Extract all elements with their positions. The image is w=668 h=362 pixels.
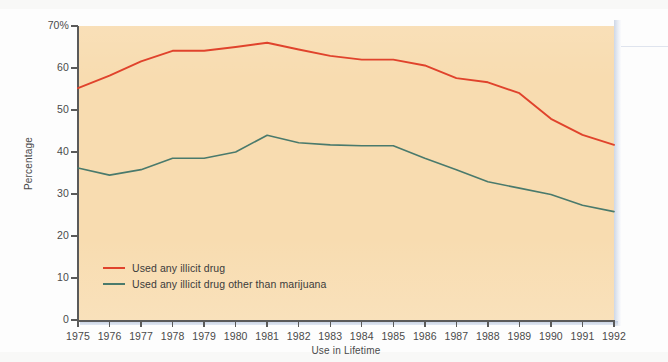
- x-tick-1991: [582, 321, 583, 327]
- y-tick-30: [71, 193, 78, 194]
- page-edge-shadow: [614, 20, 621, 326]
- x-tick-label-1992: 1992: [591, 330, 637, 342]
- legend-swatch-icon-1: [103, 283, 125, 285]
- series-line-0: [78, 43, 614, 145]
- x-tick-1984: [361, 321, 362, 327]
- series-line-1: [78, 135, 614, 211]
- y-tick-50: [71, 109, 78, 110]
- y-tick-label-30: 30: [5, 187, 69, 199]
- y-tick-label-60: 60: [5, 61, 69, 73]
- x-tick-1985: [393, 321, 394, 327]
- x-tick-1981: [266, 321, 267, 327]
- x-tick-1987: [456, 321, 457, 327]
- x-tick-1986: [424, 321, 425, 327]
- y-tick-label-20: 20: [5, 229, 69, 241]
- x-tick-1992: [613, 321, 614, 327]
- legend-item-1: Used any illicit drug other than marijua…: [103, 276, 326, 292]
- x-tick-1977: [140, 321, 141, 327]
- x-tick-1980: [235, 321, 236, 327]
- y-tick-20: [71, 235, 78, 236]
- x-tick-1983: [330, 321, 331, 327]
- y-tick-40: [71, 151, 78, 152]
- y-tick-label-40: 40: [5, 145, 69, 157]
- legend-label-1: Used any illicit drug other than marijua…: [132, 278, 326, 290]
- baseline-tint: [80, 321, 618, 325]
- y-tick-label-0: 0: [5, 313, 69, 325]
- x-tick-1988: [487, 321, 488, 327]
- x-axis-title: Use in Lifetime: [78, 345, 614, 356]
- y-tick-70%: [71, 25, 78, 26]
- page-edge-hairline: [621, 46, 668, 47]
- x-tick-1976: [109, 321, 110, 327]
- y-tick-label-70%: 70%: [5, 19, 69, 31]
- legend-label-0: Used any illicit drug: [132, 262, 225, 274]
- legend-swatch-icon-0: [103, 267, 125, 269]
- chart-figure: 010203040506070% 19751976197719781979198…: [0, 0, 668, 362]
- x-tick-1990: [550, 321, 551, 327]
- scan-artifact-top: [0, 0, 668, 9]
- x-axis-line: [77, 320, 615, 322]
- y-axis-title: Percentage: [23, 119, 34, 209]
- chart-legend: Used any illicit drug Used any illicit d…: [99, 258, 332, 295]
- y-tick-label-10: 10: [5, 271, 69, 283]
- y-tick-60: [71, 67, 78, 68]
- x-tick-1978: [172, 321, 173, 327]
- legend-item-0: Used any illicit drug: [103, 260, 326, 276]
- y-tick-10: [71, 277, 78, 278]
- x-tick-1975: [77, 321, 78, 327]
- x-tick-1979: [203, 321, 204, 327]
- x-tick-1989: [519, 321, 520, 327]
- x-tick-1982: [298, 321, 299, 327]
- y-tick-label-50: 50: [5, 103, 69, 115]
